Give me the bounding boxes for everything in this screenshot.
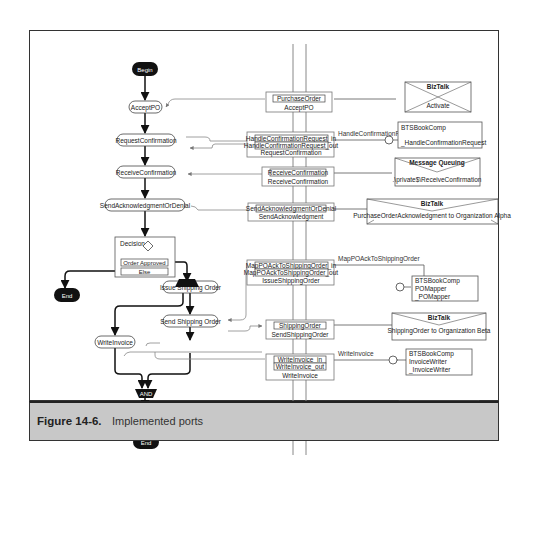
svg-text:RequestConfirmation: RequestConfirmation — [260, 149, 321, 157]
figure-title: Implemented ports — [112, 415, 203, 427]
action-send-shipping-order[interactable]: Send Shipping Order — [160, 315, 222, 327]
port-sendshippingorder[interactable]: ShippingOrder SendShippingOrder — [266, 320, 334, 339]
svg-text:AcceptPO: AcceptPO — [131, 104, 160, 112]
svg-text:BizTalk: BizTalk — [427, 83, 450, 90]
svg-text:End: End — [62, 293, 73, 299]
figure-caption: Figure 14-6. Implemented ports — [29, 401, 499, 441]
svg-text:_POMapper: _POMapper — [414, 293, 451, 301]
method-label-writeinvoice: WriteInvoice — [338, 350, 374, 357]
com-pomapper[interactable]: BTSBookComp POMapper _POMapper — [412, 276, 478, 301]
biztalk-activate[interactable]: BizTalk Activate — [405, 82, 471, 112]
svg-text:BTSBookComp: BTSBookComp — [401, 124, 446, 132]
svg-text:BizTalk: BizTalk — [421, 200, 444, 207]
svg-text:ReceiveConfirmation: ReceiveConfirmation — [268, 178, 329, 185]
svg-text:WriteInvoice: WriteInvoice — [97, 339, 133, 346]
svg-text:ShippingOrder to Organization: ShippingOrder to Organization Beta — [388, 327, 491, 335]
and-join[interactable]: AND — [135, 389, 157, 398]
action-sendacknowledgmentordenial[interactable]: SendAcknowledgmentOrDenial — [100, 199, 191, 211]
svg-text:POMapper: POMapper — [415, 285, 447, 293]
svg-text:ShippingOrder: ShippingOrder — [279, 322, 322, 330]
method-label-mappoack: MapPOAckToShippingOrder — [338, 255, 420, 263]
svg-text:SendShippingOrder: SendShippingOrder — [271, 331, 329, 339]
fork-bar — [175, 279, 199, 287]
svg-text:InvoiceWriter: InvoiceWriter — [409, 358, 448, 365]
svg-text:IssueShippingOrder: IssueShippingOrder — [262, 277, 320, 285]
svg-text:Activate: Activate — [426, 102, 450, 109]
com-invoicewriter[interactable]: BTSBookComp InvoiceWriter _InvoiceWriter — [406, 349, 472, 375]
action-acceptpo[interactable]: AcceptPO — [129, 101, 162, 113]
figure-number: Figure 14-6. — [37, 415, 102, 427]
begin-node[interactable]: Begin — [132, 62, 158, 76]
port-writeinvoice[interactable]: WriteInvoice_in WriteInvoice_out WriteIn… — [266, 354, 334, 380]
svg-text:Send Shipping Order: Send Shipping Order — [160, 318, 222, 326]
end-node-top[interactable]: End — [54, 288, 80, 302]
svg-text:RequestConfirmation: RequestConfirmation — [115, 137, 176, 145]
svg-text:MapPOAckToShippingOrder_out: MapPOAckToShippingOrder_out — [244, 269, 338, 277]
svg-text:Order Approved: Order Approved — [123, 260, 165, 266]
com-handleconfirmation[interactable]: BTSBookComp _HandleConfirmationRequest — [398, 122, 486, 148]
msmq-receiveconfirmation[interactable]: Message Queuing .\private$\ReceiveConfir… — [393, 158, 482, 186]
svg-text:.\private$\ReceiveConfirmation: .\private$\ReceiveConfirmation — [393, 176, 482, 184]
svg-text:BTSBookComp: BTSBookComp — [415, 277, 460, 285]
port-receiveconfirmation[interactable]: ReceiveConfirmation ReceiveConfirmation — [262, 167, 334, 186]
svg-text:ReceiveConfirmation: ReceiveConfirmation — [268, 169, 329, 176]
svg-text:SendAcknowledgmentOrDenial: SendAcknowledgmentOrDenial — [246, 205, 337, 213]
svg-text:SendAcknowledgmentOrDenial: SendAcknowledgmentOrDenial — [100, 202, 191, 210]
biztalk-shippingorder[interactable]: BizTalk ShippingOrder to Organization Be… — [388, 313, 491, 340]
port-sendacknowledgment[interactable]: SendAcknowledgmentOrDenial SendAcknowled… — [246, 203, 337, 221]
decision-block[interactable]: Decision Order Approved Else — [115, 237, 175, 277]
svg-text:PurchaseOrderAcknowledgment to: PurchaseOrderAcknowledgment to Organizat… — [353, 212, 511, 220]
action-receiveconfirmation[interactable]: ReceiveConfirmation — [116, 166, 177, 178]
biztalk-purchaseorderack[interactable]: BizTalk PurchaseOrderAcknowledgment to O… — [353, 199, 511, 224]
action-writeinvoice[interactable]: WriteInvoice — [95, 336, 135, 348]
port-requestconfirmation[interactable]: HandleConfirmationRequest_in HandleConfi… — [244, 132, 339, 157]
svg-text:Message Queuing: Message Queuing — [409, 159, 465, 167]
svg-text:PurchaseOrder: PurchaseOrder — [277, 95, 322, 102]
svg-text:WriteInvoice_out: WriteInvoice_out — [276, 363, 324, 371]
port-acceptpo[interactable]: PurchaseOrder AcceptPO — [266, 92, 332, 112]
svg-text:Begin: Begin — [137, 67, 152, 73]
svg-text:AND: AND — [140, 391, 153, 397]
svg-text:BizTalk: BizTalk — [428, 314, 451, 321]
svg-text:Else: Else — [139, 269, 151, 275]
port-issueshippingorder[interactable]: MapPOAckToShippingOrder_in MapPOAckToShi… — [244, 260, 338, 285]
decision-label: Decision — [120, 240, 145, 247]
svg-text:_InvoiceWriter: _InvoiceWriter — [408, 366, 451, 374]
svg-text:SendAcknowledgment: SendAcknowledgment — [259, 213, 324, 221]
orchestration-diagram: HandleConfirmationRequest MapPOAckToShip… — [0, 0, 554, 535]
svg-text:ReceiveConfirmation: ReceiveConfirmation — [116, 169, 177, 176]
action-requestconfirmation[interactable]: RequestConfirmation — [115, 134, 176, 146]
svg-text:WriteInvoice: WriteInvoice — [282, 372, 318, 379]
svg-text:AcceptPO: AcceptPO — [284, 104, 313, 112]
svg-text:_HandleConfirmationRequest: _HandleConfirmationRequest — [400, 139, 486, 147]
svg-text:BTSBookComp: BTSBookComp — [409, 350, 454, 358]
